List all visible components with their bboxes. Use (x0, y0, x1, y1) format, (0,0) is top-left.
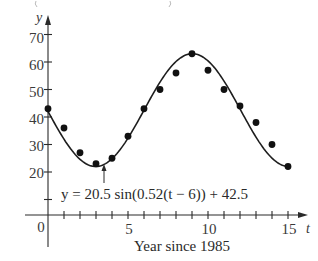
data-point (109, 155, 116, 162)
data-point (61, 125, 68, 132)
data-point (269, 141, 276, 148)
data-point (189, 50, 196, 57)
data-point (125, 133, 132, 140)
x-tick-label-15: 15 (282, 221, 297, 237)
y-tick-label-50: 50 (29, 84, 44, 100)
data-point (173, 70, 180, 77)
y-tick-label-60: 60 (29, 57, 44, 73)
y-tick-label-30: 30 (29, 138, 44, 154)
data-point (77, 149, 84, 156)
data-point (205, 67, 212, 74)
data-point (221, 86, 228, 93)
cropped-paren-right (169, 1, 171, 7)
data-points (45, 50, 292, 170)
data-point (45, 105, 52, 112)
chart-canvas: 70 60 50 40 30 20 5 10 15 0 y t Year sin… (0, 0, 318, 261)
data-point (253, 119, 260, 126)
y-tick-label-40: 40 (29, 111, 44, 127)
cropped-paren-left (35, 1, 37, 7)
y-axis-arrow-icon (45, 15, 51, 25)
data-point (93, 160, 100, 167)
equation-label: y = 20.5 sin(0.52(t − 6)) + 42.5 (61, 186, 248, 203)
x-axis-title: Year since 1985 (134, 238, 230, 254)
x-axis-arrow-icon (298, 212, 308, 218)
y-tick-label-20: 20 (29, 165, 44, 181)
x-tick-label-5: 5 (125, 221, 133, 237)
y-axis-label: y (34, 10, 43, 25)
origin-label: 0 (37, 219, 45, 235)
data-point (237, 103, 244, 110)
axes (25, 15, 308, 247)
x-axis-label: t (306, 221, 311, 236)
data-point (157, 86, 164, 93)
data-point (141, 105, 148, 112)
model-curve (48, 54, 288, 167)
x-tick-label-10: 10 (202, 221, 217, 237)
data-point (285, 163, 292, 170)
y-tick-label-70: 70 (29, 30, 44, 46)
